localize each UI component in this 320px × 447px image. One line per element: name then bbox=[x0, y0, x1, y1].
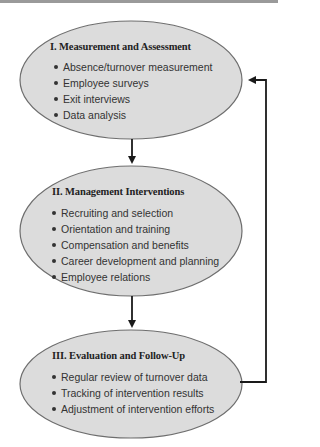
bullet-icon bbox=[52, 391, 56, 395]
list-item: Compensation and benefits bbox=[52, 237, 219, 253]
list-item: Exit interviews bbox=[54, 91, 212, 107]
bullet-icon bbox=[52, 227, 56, 231]
bullet-icon bbox=[54, 81, 58, 85]
bullet-icon bbox=[52, 407, 56, 411]
bullet-icon bbox=[54, 113, 58, 117]
list-item: Employee relations bbox=[52, 269, 219, 285]
list-item: Orientation and training bbox=[52, 221, 219, 237]
feedback-loop-arrow bbox=[240, 80, 266, 382]
bullet-icon bbox=[54, 65, 58, 69]
stage-1-title: I. Measurement and Assessment bbox=[50, 41, 191, 52]
stage-2-title: II. Management Interventions bbox=[52, 186, 184, 197]
bullet-icon bbox=[52, 259, 56, 263]
list-item: Regular review of turnover data bbox=[52, 369, 214, 385]
list-item: Employee surveys bbox=[54, 75, 212, 91]
bullet-icon bbox=[52, 275, 56, 279]
stage-1-list: Absence/turnover measurement Employee su… bbox=[54, 59, 212, 123]
list-item: Recruiting and selection bbox=[52, 205, 219, 221]
stage-3-title: III. Evaluation and Follow-Up bbox=[52, 350, 185, 361]
bullet-icon bbox=[52, 375, 56, 379]
stage-3-list: Regular review of turnover data Tracking… bbox=[52, 369, 214, 417]
bullet-icon bbox=[52, 243, 56, 247]
bullet-icon bbox=[52, 211, 56, 215]
stage-2-list: Recruiting and selection Orientation and… bbox=[52, 205, 219, 285]
list-item: Tracking of intervention results bbox=[52, 385, 214, 401]
list-item: Absence/turnover measurement bbox=[54, 59, 212, 75]
list-item: Career development and planning bbox=[52, 253, 219, 269]
list-item: Data analysis bbox=[54, 107, 212, 123]
list-item: Adjustment of intervention efforts bbox=[52, 401, 214, 417]
bullet-icon bbox=[54, 97, 58, 101]
